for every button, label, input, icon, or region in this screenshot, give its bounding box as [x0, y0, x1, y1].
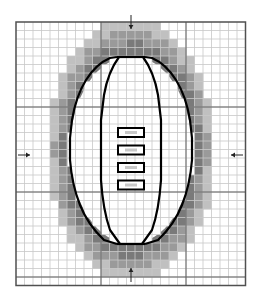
shade-cell	[67, 209, 76, 218]
shade-cell	[59, 209, 68, 218]
shade-cell	[178, 73, 187, 82]
shade-cell	[195, 150, 204, 159]
shade-cell	[178, 48, 187, 57]
shade-cell	[93, 252, 102, 261]
shade-cell	[84, 56, 93, 65]
shade-cell	[186, 235, 195, 244]
shade-cell	[59, 201, 68, 210]
shade-cell	[161, 48, 170, 57]
shade-cell	[195, 82, 204, 91]
shade-cell	[84, 48, 93, 57]
shade-cell	[178, 218, 187, 227]
shade-cell	[67, 65, 76, 74]
shade-cell	[144, 260, 153, 269]
shade-cell	[127, 31, 136, 40]
shade-cell	[118, 269, 127, 278]
shade-cell	[101, 48, 110, 57]
shade-cell	[169, 243, 178, 252]
shade-cell	[76, 65, 85, 74]
shade-cell	[152, 39, 161, 48]
shade-cell	[135, 269, 144, 278]
shade-cell	[161, 31, 170, 40]
shade-cell	[67, 192, 76, 201]
shade-cell	[144, 269, 153, 278]
shade-cell	[127, 252, 136, 261]
shade-cell	[152, 243, 161, 252]
shade-cell	[169, 48, 178, 57]
shade-cell	[195, 218, 204, 227]
shade-cell	[50, 107, 59, 116]
shade-cell	[118, 31, 127, 40]
shade-cell	[186, 209, 195, 218]
football-grid-diagram	[0, 0, 257, 300]
shade-cell	[144, 48, 153, 57]
shade-cell	[152, 31, 161, 40]
shade-cell	[50, 175, 59, 184]
shade-cell	[152, 48, 161, 57]
shade-cell	[186, 82, 195, 91]
shade-cell	[59, 192, 68, 201]
shade-cell	[186, 56, 195, 65]
shade-cell	[118, 48, 127, 57]
shade-cell	[50, 99, 59, 108]
shade-cell	[59, 218, 68, 227]
shade-cell	[67, 56, 76, 65]
shade-cell	[195, 141, 204, 150]
shade-cell	[76, 243, 85, 252]
shade-cell	[169, 252, 178, 261]
shade-cell	[195, 158, 204, 167]
shade-cell	[50, 124, 59, 133]
shade-cell	[203, 175, 212, 184]
shade-cell	[186, 65, 195, 74]
shade-cell	[101, 243, 110, 252]
shade-cell	[178, 56, 187, 65]
shade-cell	[110, 31, 119, 40]
shade-cell	[118, 252, 127, 261]
shade-cell	[93, 39, 102, 48]
shade-cell	[152, 22, 161, 31]
shade-cell	[76, 226, 85, 235]
shade-cell	[203, 124, 212, 133]
shade-cell	[203, 184, 212, 193]
shade-cell	[135, 22, 144, 31]
shade-cell	[186, 90, 195, 99]
shade-cell	[127, 39, 136, 48]
shade-cell	[161, 252, 170, 261]
shade-cell	[195, 124, 204, 133]
shade-cell	[59, 158, 68, 167]
shade-cell	[186, 226, 195, 235]
shade-cell	[195, 209, 204, 218]
shade-cell	[144, 31, 153, 40]
shade-cell	[93, 243, 102, 252]
shade-cell	[93, 48, 102, 57]
lace-stitch	[125, 166, 137, 169]
shade-cell	[84, 235, 93, 244]
shade-cell	[59, 184, 68, 193]
shade-cell	[127, 48, 136, 57]
shade-cell	[59, 124, 68, 133]
shade-cell	[186, 218, 195, 227]
shade-cell	[101, 252, 110, 261]
shade-cell	[50, 192, 59, 201]
shade-cell	[59, 167, 68, 176]
shade-cell	[101, 269, 110, 278]
shade-cell	[101, 260, 110, 269]
shade-cell	[59, 107, 68, 116]
shade-cell	[59, 133, 68, 142]
shade-cell	[152, 252, 161, 261]
shade-cell	[195, 73, 204, 82]
shade-cell	[161, 260, 170, 269]
shade-cell	[67, 218, 76, 227]
shade-cell	[144, 39, 153, 48]
shade-cell	[178, 235, 187, 244]
shade-cell	[110, 269, 119, 278]
shade-cell	[186, 73, 195, 82]
shade-cell	[195, 107, 204, 116]
shade-cell	[118, 260, 127, 269]
shade-cell	[169, 235, 178, 244]
shade-cell	[59, 99, 68, 108]
shade-cell	[203, 167, 212, 176]
shade-cell	[76, 73, 85, 82]
shade-cell	[84, 39, 93, 48]
shade-cell	[195, 201, 204, 210]
